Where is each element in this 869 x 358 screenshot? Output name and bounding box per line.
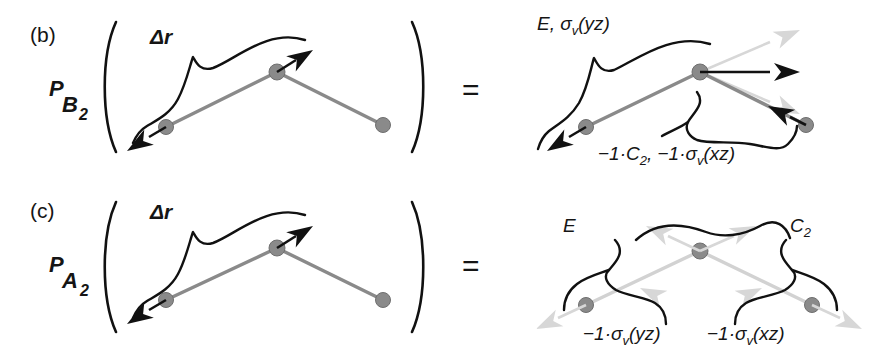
annotation-c-C2-sub: 2 xyxy=(803,225,812,240)
annotation-c-E-text: E xyxy=(563,215,576,236)
row-c: (c) P A 2 Δr = xyxy=(30,199,866,348)
figure-canvas: (b) P B 2 Δr = xyxy=(0,0,869,358)
annotation-c-C2-text: C2 xyxy=(790,215,812,240)
annotation-c-sigma-yz-main: −1·σ xyxy=(583,323,624,344)
ghost-vector-bond-right-head-c xyxy=(735,280,766,307)
annotation-b-bottom-text: −1·C2, −1·σv(xz) xyxy=(598,143,735,168)
annotation-c-sigma-xz-text: −1·σv(xz) xyxy=(707,323,785,348)
right-parenthesis-b xyxy=(412,22,423,152)
brace-b-bottom xyxy=(687,92,797,148)
vector-apex-head-b-left xyxy=(286,42,318,71)
bond-left-c-right xyxy=(586,251,700,305)
annotation-c-sigma-yz: −1·σv(yz) xyxy=(583,323,661,348)
ghost-vector-right-head-c xyxy=(835,310,866,337)
annotation-b-bottom-main: −1·C xyxy=(598,143,640,164)
row-b: (b) P B 2 Δr = xyxy=(30,13,814,168)
delta-r-label-b: Δr xyxy=(149,25,174,48)
annotation-b-top-text: E, σv(yz) xyxy=(537,13,610,38)
bond-right-c-left xyxy=(277,248,383,300)
annotation-c-sigma-yz-text: −1·σv(yz) xyxy=(583,323,661,348)
bond-left-b-right xyxy=(586,72,700,127)
annotation-c-sigma-xz-main: −1·σ xyxy=(707,323,748,344)
atom-right-c-left xyxy=(376,293,391,308)
left-parenthesis-b xyxy=(105,22,116,152)
vector-apex-head-b-right xyxy=(774,63,800,81)
left-parenthesis-c xyxy=(105,202,116,332)
annotation-c-C2-main: C xyxy=(790,215,804,236)
ghost-vector-bond-left-head-c xyxy=(636,280,667,307)
molecule-b-left xyxy=(122,42,390,158)
annotation-b-top-main: E, σ xyxy=(537,13,573,34)
operator-label-c: P A 2 xyxy=(49,252,89,299)
ghost-vector-apex-up-left-c xyxy=(668,236,700,251)
operator-subscript-b: B xyxy=(62,92,78,117)
operator-subscript-c: A xyxy=(61,268,78,293)
panel-tag-b: (b) xyxy=(30,23,56,46)
molecule-c-right xyxy=(532,218,866,337)
bond-left-b-left xyxy=(166,72,277,127)
molecule-c-left xyxy=(122,218,390,331)
vector-left-head-c-left xyxy=(122,303,154,332)
brace-b-bottom-tail xyxy=(662,122,688,136)
operator-subscript-number-b: 2 xyxy=(78,106,88,123)
bond-left-c-left xyxy=(166,248,277,300)
annotation-b-bottom-tail: , −1·σ xyxy=(647,143,699,164)
equals-sign-b: = xyxy=(462,73,480,106)
ghost-vector-left-head-c xyxy=(532,310,563,337)
annotation-c-sigma-xz: −1·σv(xz) xyxy=(707,323,785,348)
annotation-c-sigma-yz-tail: (yz) xyxy=(629,323,661,344)
operator-label-b: P B 2 xyxy=(49,76,88,123)
ghost-vector-up-head-b xyxy=(773,22,804,49)
annotation-b-bottom-tail2: (xz) xyxy=(703,143,735,164)
annotation-c-sigma-xz-tail: (xz) xyxy=(753,323,785,344)
ghost-vector-apex-up-right-c xyxy=(700,236,734,251)
ghost-vector-apex-up-right-head-c xyxy=(729,218,760,245)
ghost-vector-up-b xyxy=(700,42,770,72)
atom-right-b-left xyxy=(376,118,391,133)
right-parenthesis-c xyxy=(412,202,423,332)
annotation-b-bottom: −1·C2, −1·σv(xz) xyxy=(598,92,797,168)
operator-subscript-number-c: 2 xyxy=(79,282,89,299)
vector-apex-head-c-left xyxy=(286,218,318,247)
equals-sign-c: = xyxy=(462,249,480,282)
panel-tag-c: (c) xyxy=(30,199,55,222)
delta-r-label-c: Δr xyxy=(149,200,174,223)
annotation-b-top-tail: (yz) xyxy=(578,13,610,34)
bond-right-b-left xyxy=(277,72,383,125)
